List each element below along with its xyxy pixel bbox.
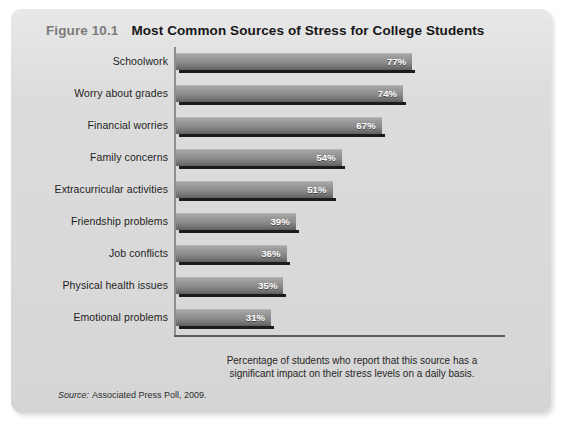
bar-category-label: Financial worries bbox=[11, 119, 168, 131]
bar-value-label: 74% bbox=[378, 88, 397, 99]
bar-shadow bbox=[179, 70, 415, 73]
bar-fill: 74% bbox=[176, 85, 403, 102]
bar-category-label: Job conflicts bbox=[11, 247, 168, 259]
bar-row: Job conflicts36% bbox=[11, 243, 551, 273]
bar-category-label: Family concerns bbox=[11, 151, 168, 163]
bar-shadow bbox=[179, 134, 385, 137]
source-line: Source:Associated Press Poll, 2009. bbox=[58, 390, 207, 400]
bar-row: Schoolwork77% bbox=[11, 51, 551, 81]
bar-row: Extracurricular activities51% bbox=[11, 179, 551, 209]
bar-value-label: 39% bbox=[270, 216, 289, 227]
bar-shadow bbox=[179, 198, 336, 201]
bar-category-label: Worry about grades bbox=[11, 87, 168, 99]
figure-title: Figure 10.1Most Common Sources of Stress… bbox=[46, 21, 484, 39]
bar-shadow bbox=[179, 102, 406, 105]
bar: 67% bbox=[176, 117, 382, 137]
bar-category-label: Emotional problems bbox=[11, 311, 168, 323]
bar-category-label: Extracurricular activities bbox=[11, 183, 168, 195]
bar-shadow bbox=[179, 262, 290, 265]
bar-value-label: 67% bbox=[356, 120, 375, 131]
bar-value-label: 36% bbox=[261, 248, 280, 259]
bar-fill: 54% bbox=[176, 149, 342, 166]
bar-fill: 51% bbox=[176, 181, 333, 198]
bar-shadow bbox=[179, 230, 299, 233]
bar-value-label: 54% bbox=[316, 152, 335, 163]
bar: 39% bbox=[176, 213, 296, 233]
bar-value-label: 51% bbox=[307, 184, 326, 195]
bar-category-label: Schoolwork bbox=[11, 55, 168, 67]
bar-row: Emotional problems31% bbox=[11, 307, 551, 337]
bar-value-label: 77% bbox=[387, 56, 406, 67]
bar: 74% bbox=[176, 85, 403, 105]
bar-row: Physical health issues35% bbox=[11, 275, 551, 305]
bar: 35% bbox=[176, 277, 283, 297]
bar-fill: 36% bbox=[176, 245, 287, 262]
bar: 54% bbox=[176, 149, 342, 169]
bar-row: Worry about grades74% bbox=[11, 83, 551, 113]
bar-row: Friendship problems39% bbox=[11, 211, 551, 241]
bar-value-label: 31% bbox=[246, 312, 265, 323]
figure-number: Figure 10.1 bbox=[46, 23, 118, 38]
bar-fill: 35% bbox=[176, 277, 283, 294]
bar-shadow bbox=[179, 166, 345, 169]
bar-category-label: Friendship problems bbox=[11, 215, 168, 227]
bar-row: Family concerns54% bbox=[11, 147, 551, 177]
bar: 51% bbox=[176, 181, 333, 201]
bar-fill: 77% bbox=[176, 53, 412, 70]
source-label: Source: bbox=[58, 390, 89, 400]
bar-value-label: 35% bbox=[258, 280, 277, 291]
bar: 31% bbox=[176, 309, 271, 329]
chart-caption: Percentage of students who report that t… bbox=[207, 354, 497, 380]
bar-fill: 39% bbox=[176, 213, 296, 230]
bar-shadow bbox=[179, 294, 286, 297]
chart-plot-area: Schoolwork77%Worry about grades74%Financ… bbox=[11, 43, 551, 343]
page-title: Most Common Sources of Stress for Colleg… bbox=[131, 23, 484, 38]
bar: 36% bbox=[176, 245, 287, 265]
source-text: Associated Press Poll, 2009. bbox=[92, 390, 207, 400]
bar-fill: 31% bbox=[176, 309, 271, 326]
bar-shadow bbox=[179, 326, 274, 329]
bar-row: Financial worries67% bbox=[11, 115, 551, 145]
bar-category-label: Physical health issues bbox=[11, 279, 168, 291]
bar-fill: 67% bbox=[176, 117, 382, 134]
figure-panel: Figure 10.1Most Common Sources of Stress… bbox=[11, 9, 551, 413]
bar: 77% bbox=[176, 53, 412, 73]
